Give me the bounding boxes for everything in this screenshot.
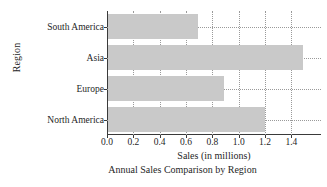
bar-chart-figure: Region North AmericaEuropeAsiaSouth Amer… xyxy=(0,0,327,187)
y-axis-tick-labels: North AmericaEuropeAsiaSouth America xyxy=(26,11,104,135)
y-axis-title: Region xyxy=(11,28,22,88)
x-gridline xyxy=(291,11,292,135)
bar xyxy=(108,45,303,70)
y-axis-tick-label: Asia xyxy=(26,53,104,63)
x-gridline xyxy=(265,11,266,135)
x-axis-spine xyxy=(107,134,321,135)
y-axis-tick-label: North America xyxy=(26,115,104,125)
bar xyxy=(108,76,224,101)
y-axis-tick xyxy=(104,89,107,90)
x-axis-tick-labels: 0.00.20.40.60.81.01.21.4 xyxy=(107,137,321,149)
y-axis-tick-label: South America xyxy=(26,22,104,32)
y-axis-tick xyxy=(104,120,107,121)
x-axis-title: Sales (in millions) xyxy=(107,150,321,161)
plot-area xyxy=(107,11,321,135)
figure-caption: Annual Sales Comparison by Region xyxy=(50,164,315,175)
y-axis-tick xyxy=(104,27,107,28)
x-axis-tick-label: 1.4 xyxy=(271,137,311,147)
y-axis-tick-label: Europe xyxy=(26,84,104,94)
bar xyxy=(108,14,198,39)
y-axis-tick xyxy=(104,58,107,59)
bar xyxy=(108,107,265,132)
